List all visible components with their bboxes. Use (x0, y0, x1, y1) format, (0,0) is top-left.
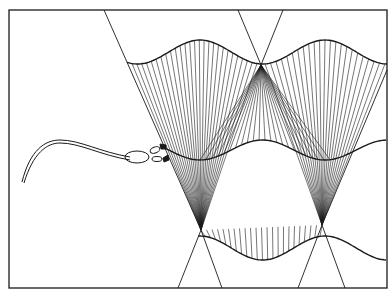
diagram-canvas (0, 0, 391, 296)
source-organism (22, 140, 169, 183)
wavefront-diagram (0, 0, 391, 296)
ray-lines (104, 10, 387, 288)
